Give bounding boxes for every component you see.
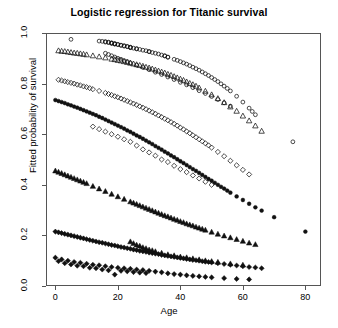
x-tickmark <box>180 286 181 290</box>
y-axis-title: Fitted probability of survival <box>27 36 38 196</box>
x-tick-label: 40 <box>166 292 194 302</box>
y-tickmark <box>42 33 46 34</box>
y-tickmark <box>42 286 46 287</box>
y-tickmark <box>42 84 46 85</box>
y-tickmark <box>42 235 46 236</box>
y-tickmark <box>42 185 46 186</box>
x-axis-title: Age <box>0 305 338 316</box>
y-tick-label: 0.2 <box>19 220 29 248</box>
x-tickmark <box>305 286 306 290</box>
chart-container: Logistic regression for Titanic survival… <box>0 0 338 328</box>
plot-area <box>46 33 321 286</box>
x-tickmark <box>118 286 119 290</box>
x-tick-label: 60 <box>229 292 257 302</box>
x-tick-label: 0 <box>41 292 69 302</box>
y-tick-label: 0.0 <box>19 271 29 299</box>
y-tickmark <box>42 134 46 135</box>
x-tick-label: 80 <box>291 292 319 302</box>
chart-title: Logistic regression for Titanic survival <box>0 6 338 18</box>
x-tickmark <box>55 286 56 290</box>
x-tickmark <box>243 286 244 290</box>
x-tick-label: 20 <box>104 292 132 302</box>
